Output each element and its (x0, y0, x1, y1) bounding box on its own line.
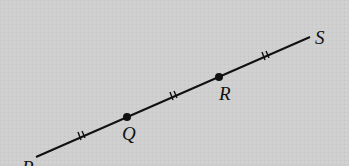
label-q: Q (122, 124, 136, 143)
point-r (215, 73, 223, 81)
label-r: R (219, 84, 231, 103)
background (0, 0, 349, 166)
label-s: S (315, 28, 325, 47)
geometry-diagram (0, 0, 349, 166)
point-q (123, 113, 131, 121)
label-p: P (22, 158, 34, 166)
